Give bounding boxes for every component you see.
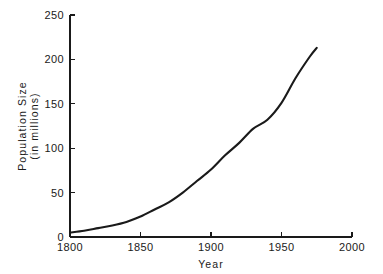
y-tick-label-200: 200 <box>44 53 64 65</box>
x-tick-label-2000: 2000 <box>339 241 365 253</box>
y-tick-label-100: 100 <box>44 142 64 154</box>
x-tick-label-1950: 1950 <box>268 241 294 253</box>
population-curve <box>70 48 317 233</box>
y-axis-title-line1: Population Size <box>16 81 28 170</box>
x-tick-label-1800: 1800 <box>57 241 83 253</box>
y-tick-label-150: 150 <box>44 98 64 110</box>
y-axis-title-line2: (in millions) <box>28 92 40 159</box>
chart-canvas: 250 200 150 100 50 0 1800 1850 1900 1950… <box>0 0 383 274</box>
y-tick-label-50: 50 <box>51 187 64 199</box>
population-growth-chart: 250 200 150 100 50 0 1800 1850 1900 1950… <box>0 0 383 274</box>
x-axis-title: Year <box>198 258 224 270</box>
y-tick-label-250: 250 <box>44 9 64 21</box>
y-axis-ticks <box>70 15 75 237</box>
x-axis-ticks <box>70 232 352 237</box>
x-tick-label-1900: 1900 <box>198 241 224 253</box>
x-tick-label-1850: 1850 <box>127 241 153 253</box>
